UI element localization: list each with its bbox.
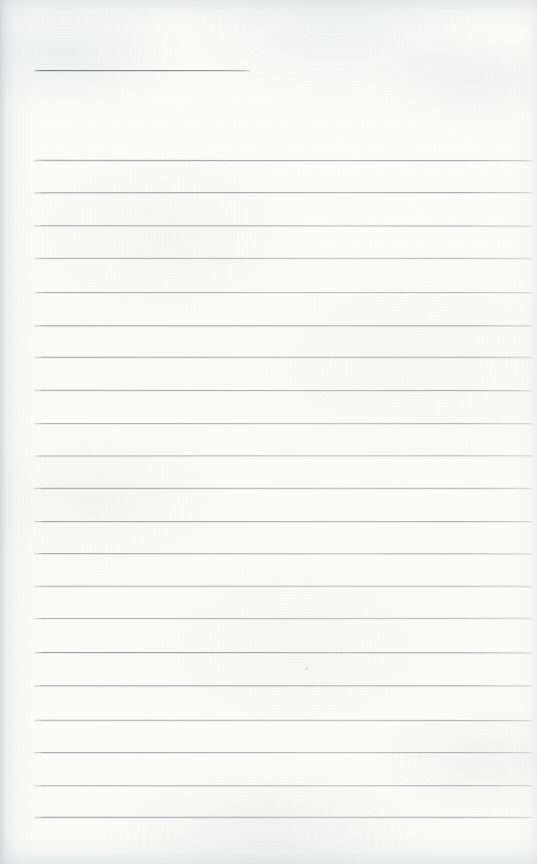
scanned-page <box>0 0 537 864</box>
paper-background <box>0 0 537 864</box>
